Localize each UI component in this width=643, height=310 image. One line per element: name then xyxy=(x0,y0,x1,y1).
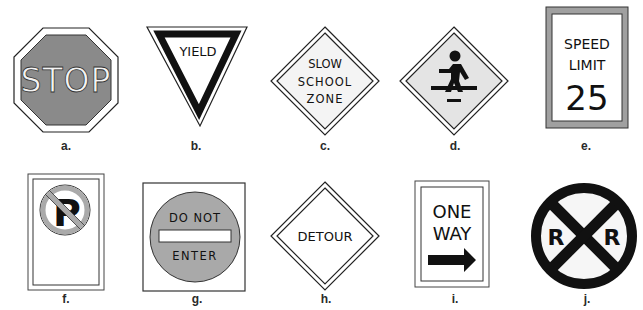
school-line-3: ZONE xyxy=(307,92,344,106)
one-way-line-1: ONE xyxy=(432,201,471,222)
slow-school-zone-sign: SLOW SCHOOL ZONE xyxy=(270,26,380,136)
sign-label-j: j. xyxy=(584,292,591,306)
sign-label-d: d. xyxy=(450,139,461,153)
detour-text: DETOUR xyxy=(298,229,353,244)
detour-sign: DETOUR xyxy=(270,181,380,291)
sign-label-a: a. xyxy=(61,139,71,153)
sign-label-f: f. xyxy=(62,292,69,306)
dne-bar xyxy=(159,230,231,242)
school-line-2: SCHOOL xyxy=(298,75,353,89)
speed-line-1: SPEED xyxy=(564,36,610,52)
one-way-line-2: WAY xyxy=(433,223,473,244)
dne-line-1: DO NOT xyxy=(169,211,221,225)
railroad-crossing-sign: R R xyxy=(530,182,638,290)
rr-letter-left: R xyxy=(548,225,565,250)
yield-sign: YIELD xyxy=(144,24,252,130)
sign-label-e: e. xyxy=(581,139,591,153)
stop-text: STOP xyxy=(21,61,112,100)
sign-label-i: i. xyxy=(452,292,459,306)
speed-line-2: LIMIT xyxy=(569,57,606,73)
pedestrian-crossing-sign xyxy=(399,26,509,136)
no-parking-sign: P xyxy=(26,172,108,292)
one-way-sign: ONE WAY xyxy=(414,180,494,290)
rr-letter-right: R xyxy=(604,225,621,250)
speed-limit-sign: SPEED LIMIT 25 xyxy=(545,6,631,130)
speed-value: 25 xyxy=(565,78,608,118)
school-line-1: SLOW xyxy=(308,57,342,71)
yield-text: YIELD xyxy=(178,44,216,59)
sign-label-h: h. xyxy=(321,292,332,306)
sign-label-b: b. xyxy=(191,139,202,153)
sign-label-c: c. xyxy=(320,139,330,153)
do-not-enter-sign: DO NOT ENTER xyxy=(142,182,248,294)
stop-sign: STOP xyxy=(10,24,122,136)
dne-line-2: ENTER xyxy=(172,249,218,263)
sign-label-g: g. xyxy=(192,292,203,306)
